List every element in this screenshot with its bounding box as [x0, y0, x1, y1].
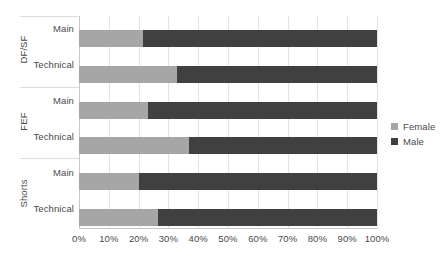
category-label-fef-main: Main — [53, 95, 74, 106]
bar-segment-female[interactable] — [79, 30, 143, 47]
bar-row[interactable] — [79, 102, 377, 119]
bar-segment-female[interactable] — [79, 209, 158, 226]
bar-segment-male[interactable] — [143, 30, 377, 47]
value-axis-line — [79, 16, 80, 229]
bar-segment-male[interactable] — [148, 102, 377, 119]
legend: Female Male — [391, 119, 447, 149]
value-axis-tick-70: 70% — [278, 233, 297, 244]
legend-swatch-female-icon — [391, 123, 398, 130]
group-separator-1 — [20, 87, 79, 88]
group-separator-2 — [20, 158, 79, 159]
bar-row[interactable] — [79, 66, 377, 83]
group-separator-top — [20, 16, 79, 17]
gridline-20 — [139, 16, 140, 229]
category-label-shorts-technical: Technical — [33, 203, 74, 214]
value-axis-tick-50: 50% — [218, 233, 237, 244]
bar-segment-female[interactable] — [79, 173, 139, 190]
value-axis-tick-20: 20% — [129, 233, 148, 244]
bar-row[interactable] — [79, 30, 377, 47]
value-axis-tick-60: 60% — [248, 233, 267, 244]
gridline-90 — [347, 16, 348, 229]
value-axis-tick-0: 0% — [72, 233, 86, 244]
gridline-80 — [317, 16, 318, 229]
bar-segment-male[interactable] — [139, 173, 377, 190]
value-axis-tick-40: 40% — [189, 233, 208, 244]
value-axis-tick-80: 80% — [308, 233, 327, 244]
category-label-fef-technical: Technical — [33, 131, 74, 142]
legend-swatch-male-icon — [391, 138, 398, 145]
legend-item-male[interactable]: Male — [391, 134, 447, 148]
bar-row[interactable] — [79, 209, 377, 226]
gridline-10 — [109, 16, 110, 229]
stacked-bar-chart: DF/SF FEF Shorts Main Technical Main Tec… — [0, 0, 448, 269]
category-label-df-sf-main: Main — [53, 23, 74, 34]
legend-item-female[interactable]: Female — [391, 119, 447, 133]
value-axis-tick-90: 90% — [338, 233, 357, 244]
category-label-df-sf-technical: Technical — [33, 59, 74, 70]
legend-label-male: Male — [403, 136, 424, 147]
bar-segment-male[interactable] — [177, 66, 377, 83]
gridline-50 — [228, 16, 229, 229]
bar-segment-female[interactable] — [79, 102, 148, 119]
gridline-60 — [258, 16, 259, 229]
bar-segment-male[interactable] — [158, 209, 377, 226]
value-axis-tick-100: 100% — [365, 233, 390, 244]
value-axis-tick-30: 30% — [159, 233, 178, 244]
legend-label-female: Female — [403, 121, 435, 132]
plot-area — [79, 16, 377, 229]
category-axis-labels: Main Technical Main Technical Main Techn… — [20, 0, 74, 269]
category-label-shorts-main: Main — [53, 167, 74, 178]
gridline-30 — [168, 16, 169, 229]
bar-segment-male[interactable] — [189, 137, 377, 154]
value-axis-tick-10: 10% — [99, 233, 118, 244]
bar-segment-female[interactable] — [79, 66, 177, 83]
gridline-70 — [288, 16, 289, 229]
gridline-100 — [377, 16, 378, 229]
bar-row[interactable] — [79, 137, 377, 154]
gridline-40 — [198, 16, 199, 229]
bar-segment-female[interactable] — [79, 137, 189, 154]
value-axis-tick-labels: 0%10%20%30%40%50%60%70%80%90%100% — [79, 233, 377, 249]
bar-row[interactable] — [79, 173, 377, 190]
category-axis-line — [79, 228, 377, 229]
